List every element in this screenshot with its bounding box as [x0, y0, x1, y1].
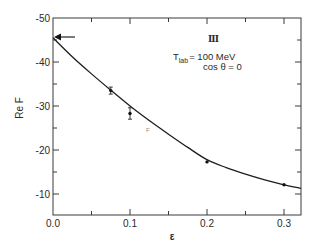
y-tick-label: -20: [36, 145, 51, 156]
y-tick-label: -10: [36, 189, 51, 200]
y-tick-label: -40: [36, 57, 51, 68]
x-axis-ticks: 0.00.10.20.3: [46, 18, 291, 229]
panel-label: III: [208, 32, 219, 44]
data-point: [205, 160, 208, 163]
data-point: [109, 87, 113, 94]
y-axis-label: Re F: [14, 97, 25, 119]
stray-mark: F: [146, 127, 150, 133]
plot-frame: [53, 18, 301, 215]
arrow-icon: [54, 34, 75, 41]
x-tick-label: 0.1: [123, 218, 137, 229]
x-tick-label: 0.3: [277, 218, 291, 229]
y-tick-label: -30: [36, 101, 51, 112]
tlab-subscript: lab: [179, 57, 188, 64]
cos-theta-label: cos θ = 0: [203, 61, 242, 72]
x-axis-label: ε: [170, 231, 175, 242]
data-points: [109, 87, 286, 186]
chart: 0.00.10.20.3 -50-40-30-20-10 III Tlab= 1…: [0, 0, 314, 252]
data-point: [282, 183, 285, 186]
x-tick-label: 0.0: [46, 218, 60, 229]
y-axis-ticks: -50-40-30-20-10: [36, 13, 301, 200]
y-tick-label: -50: [36, 13, 51, 24]
x-tick-label: 0.2: [200, 218, 214, 229]
data-point: [128, 108, 132, 119]
